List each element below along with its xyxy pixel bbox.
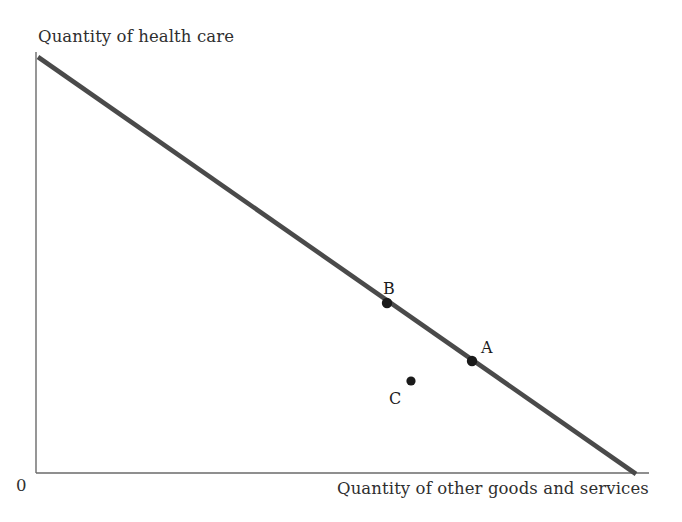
budget-constraint-line [38, 57, 636, 474]
budget-constraint-figure: Quantity of health care Quantity of othe… [0, 0, 682, 522]
point-label-b: B [383, 279, 395, 298]
y-axis-title: Quantity of health care [38, 27, 234, 46]
data-point-b [382, 298, 392, 308]
origin-label: 0 [16, 476, 27, 495]
plot-area [0, 0, 682, 522]
data-point-a [467, 356, 477, 366]
point-label-a: A [481, 338, 493, 357]
point-label-c: C [389, 389, 401, 408]
data-point-c [406, 376, 415, 385]
x-axis-title: Quantity of other goods and services [337, 479, 649, 498]
